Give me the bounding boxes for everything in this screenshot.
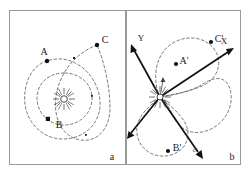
body-marker-A-prime: [174, 62, 178, 66]
body-marker-A: [45, 59, 49, 63]
orbit-tick-marker: [85, 134, 87, 136]
body-label-B-prime: B': [173, 142, 182, 153]
body-label-B: B: [56, 119, 63, 130]
body-label-A-prime: A': [179, 55, 188, 66]
panel-caption-a: a: [110, 151, 115, 162]
body-marker-C: [95, 43, 99, 47]
axis-label-X: X: [221, 36, 228, 46]
body-marker-B: [46, 117, 50, 121]
body-marker-C-prime: [209, 40, 213, 44]
body-label-C: C: [102, 34, 109, 45]
panel-caption-b: b: [230, 151, 235, 162]
axis-label-Y: Y: [138, 33, 145, 43]
orbit-tick-marker: [73, 57, 75, 59]
annotation-c-prime: c': [193, 146, 197, 154]
two-panel-orbit-figure: A B C a: [0, 0, 250, 174]
body-label-A: A: [40, 46, 48, 57]
orbit-tick-marker: [91, 95, 93, 97]
body-marker-B-prime: [166, 149, 170, 153]
